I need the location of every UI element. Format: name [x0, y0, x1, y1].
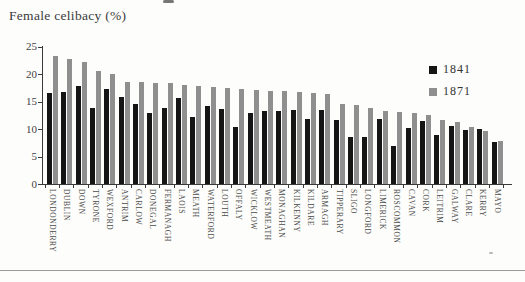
x-tick — [73, 185, 74, 188]
x-tick — [331, 185, 332, 188]
y-tick-label-25: 25 — [11, 40, 37, 52]
x-tick — [159, 185, 160, 188]
y-tick-label-5: 5 — [11, 150, 37, 162]
x-label-down: DOWN — [77, 189, 86, 215]
bar-1841-sligo — [348, 137, 353, 184]
page-rule — [0, 270, 525, 271]
bar-1841-monaghan — [276, 111, 281, 184]
x-label-londonderry: LONDONDERRY — [48, 189, 57, 252]
bar-1871-antrim — [125, 82, 130, 184]
x-label-antrim: ANTRIM — [120, 189, 129, 222]
bar-1871-limerick — [383, 111, 388, 184]
bar-1871-armagh — [325, 94, 330, 184]
x-label-kerry: KERRY — [478, 189, 487, 217]
x-tick — [446, 185, 447, 188]
bar-1841-waterford — [205, 106, 210, 184]
bar-1841-cork — [420, 121, 425, 184]
legend-label-1841: 1841 — [443, 62, 471, 77]
x-tick — [274, 185, 275, 188]
bar-1841-louth — [219, 109, 224, 184]
bar-1841-mayo — [492, 142, 497, 184]
bar-1871-wicklow — [254, 90, 259, 184]
x-tick — [59, 185, 60, 188]
x-label-meath: MEATH — [191, 189, 200, 218]
bar-1841-cavan — [406, 128, 411, 184]
x-label-roscommon: ROSCOMMON — [392, 189, 401, 244]
bar-1841-carlow — [133, 104, 138, 184]
y-tick-5 — [38, 157, 42, 158]
x-tick — [303, 185, 304, 188]
x-label-carlow: CARLOW — [134, 189, 143, 225]
bar-1841-limerick — [377, 119, 382, 184]
x-tick — [417, 185, 418, 188]
x-label-leitrim: LEITRIM — [435, 189, 444, 224]
bar-1841-wexford — [104, 89, 109, 184]
x-tick — [389, 185, 390, 188]
x-label-kildare: KILDARE — [306, 189, 315, 226]
legend-swatch-1841-icon — [429, 66, 437, 74]
x-tick — [145, 185, 146, 188]
x-label-tyrone: TYRONE — [91, 189, 100, 223]
x-label-louth: LOUTH — [220, 189, 229, 217]
x-tick — [202, 185, 203, 188]
legend-item-1871: 1871 — [429, 84, 471, 99]
legend-item-1841: 1841 — [429, 62, 471, 77]
bar-1871-wexford — [110, 74, 115, 184]
bar-1841-fermanagh — [162, 108, 167, 184]
x-tick — [102, 185, 103, 188]
x-tick — [489, 185, 490, 188]
bar-1871-louth — [225, 88, 230, 184]
x-label-fermanagh: FERMANAGH — [163, 189, 172, 242]
x-label-waterford: WATERFORD — [206, 189, 215, 239]
bar-1871-carlow — [139, 82, 144, 184]
x-tick — [475, 185, 476, 188]
bar-1841-tyrone — [90, 108, 95, 184]
bar-1871-kilkenny — [297, 92, 302, 184]
bar-1871-laois — [182, 85, 187, 184]
bar-1841-clare — [463, 130, 468, 184]
bar-1841-roscommon — [391, 146, 396, 184]
bar-1841-leitrim — [434, 135, 439, 184]
bar-1841-dublin — [61, 92, 66, 184]
y-tick-25 — [38, 47, 42, 48]
y-tick-label-0: 0 — [11, 178, 37, 190]
bar-1871-kerry — [483, 131, 488, 184]
bar-1871-clare — [469, 127, 474, 184]
bar-1841-wicklow — [248, 113, 253, 185]
x-label-limerick: LIMERICK — [378, 189, 387, 230]
x-tick — [188, 185, 189, 188]
x-tick — [288, 185, 289, 188]
bar-1871-down — [82, 62, 87, 184]
x-tick — [432, 185, 433, 188]
bar-1871-dublin — [67, 59, 72, 184]
bar-1841-westmeath — [262, 111, 267, 184]
bar-1871-sligo — [354, 105, 359, 184]
y-tick-20 — [38, 74, 42, 75]
bar-1841-tipperary — [334, 120, 339, 184]
y-tick-15 — [38, 102, 42, 103]
x-label-westmeath: WESTMEATH — [263, 189, 272, 241]
bar-1841-kilkenny — [291, 110, 296, 184]
bar-1841-armagh — [319, 110, 324, 184]
bar-1871-cavan — [412, 113, 417, 185]
bar-1841-down — [76, 86, 81, 184]
x-tick — [45, 185, 46, 188]
bar-1871-westmeath — [268, 91, 273, 185]
bar-1871-donegal — [153, 83, 158, 184]
y-tick-label-10: 10 — [11, 123, 37, 135]
x-label-galway: GALWAY — [450, 189, 459, 224]
x-label-mayo: MAYO — [493, 189, 502, 214]
x-tick — [245, 185, 246, 188]
x-label-donegal: DONEGAL — [148, 189, 157, 229]
bar-1841-galway — [449, 126, 454, 184]
x-label-longford: LONGFORD — [363, 189, 372, 235]
x-label-laois: LAOIS — [177, 189, 186, 214]
y-tick-0 — [38, 184, 42, 185]
x-tick — [231, 185, 232, 188]
bar-1871-monaghan — [282, 91, 287, 184]
bar-1841-donegal — [147, 113, 152, 184]
x-tick — [131, 185, 132, 188]
x-tick — [317, 185, 318, 188]
legend: 1841 1871 — [429, 62, 471, 106]
bar-1871-roscommon — [397, 112, 402, 184]
